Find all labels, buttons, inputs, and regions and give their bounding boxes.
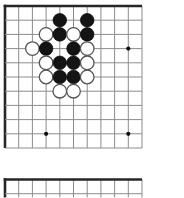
white-stone[interactable] <box>67 28 81 42</box>
go-diagram-canvas <box>0 0 184 198</box>
black-stone[interactable] <box>67 42 81 56</box>
go-board-top[interactable] <box>4 5 142 148</box>
white-stone[interactable] <box>39 56 53 70</box>
go-board-bottom-partial[interactable] <box>4 178 142 197</box>
white-stone[interactable] <box>80 70 94 84</box>
go-diagram-screen <box>0 0 184 198</box>
black-stone[interactable] <box>53 13 67 27</box>
black-stone[interactable] <box>53 70 67 84</box>
white-stone[interactable] <box>39 70 53 84</box>
black-stone[interactable] <box>80 28 94 42</box>
black-stone[interactable] <box>80 13 94 27</box>
white-stone[interactable] <box>80 42 94 56</box>
black-stone[interactable] <box>67 56 81 70</box>
black-stone[interactable] <box>39 42 53 56</box>
black-stone[interactable] <box>53 56 67 70</box>
star-point <box>126 132 130 136</box>
star-point <box>44 132 48 136</box>
white-stone[interactable] <box>26 42 40 56</box>
white-stone[interactable] <box>80 56 94 70</box>
black-stone[interactable] <box>53 28 67 42</box>
black-stone[interactable] <box>67 70 81 84</box>
white-stone[interactable] <box>39 28 53 42</box>
star-point <box>126 47 130 51</box>
white-stone[interactable] <box>53 84 67 98</box>
white-stone[interactable] <box>67 84 81 98</box>
